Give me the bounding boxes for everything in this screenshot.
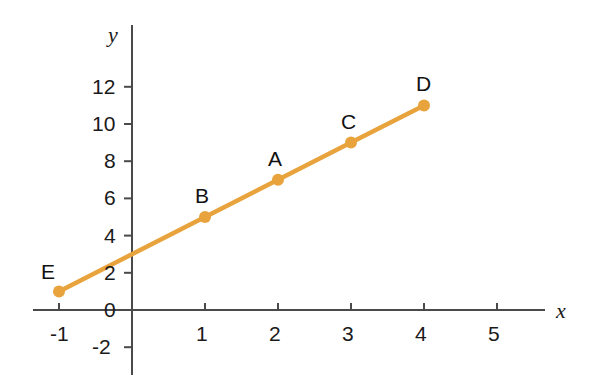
data-point-e[interactable]	[53, 285, 65, 297]
x-tick-label: -1	[50, 323, 69, 344]
data-point-b[interactable]	[199, 211, 211, 223]
point-label-a: A	[268, 148, 282, 169]
point-label-b: B	[195, 185, 209, 206]
y-tick-label: 2	[104, 262, 116, 283]
graph-figure: -112345121086420-2EBACD y x	[0, 0, 590, 392]
y-tick-label: 8	[104, 150, 116, 171]
y-tick-label: -2	[92, 336, 111, 357]
x-tick-label: 1	[196, 323, 208, 344]
x-tick-label: 3	[342, 323, 354, 344]
coordinate-plane-svg	[0, 0, 590, 392]
data-point-d[interactable]	[418, 99, 430, 111]
y-axis-label: y	[108, 24, 118, 46]
origin-label: 0	[104, 299, 116, 320]
axis-ticks-group	[59, 87, 497, 347]
point-label-d: D	[416, 73, 431, 94]
x-tick-label: 4	[415, 323, 427, 344]
y-tick-label: 12	[92, 76, 115, 97]
x-axis-label: x	[556, 300, 566, 322]
point-label-c: C	[341, 111, 356, 132]
data-point-c[interactable]	[345, 137, 357, 149]
data-point-a[interactable]	[272, 174, 284, 186]
y-tick-label: 10	[92, 113, 115, 134]
point-label-e: E	[41, 261, 55, 282]
y-tick-label: 4	[104, 225, 116, 246]
x-tick-label: 2	[269, 323, 281, 344]
x-tick-label: 5	[488, 323, 500, 344]
y-tick-label: 6	[104, 187, 116, 208]
